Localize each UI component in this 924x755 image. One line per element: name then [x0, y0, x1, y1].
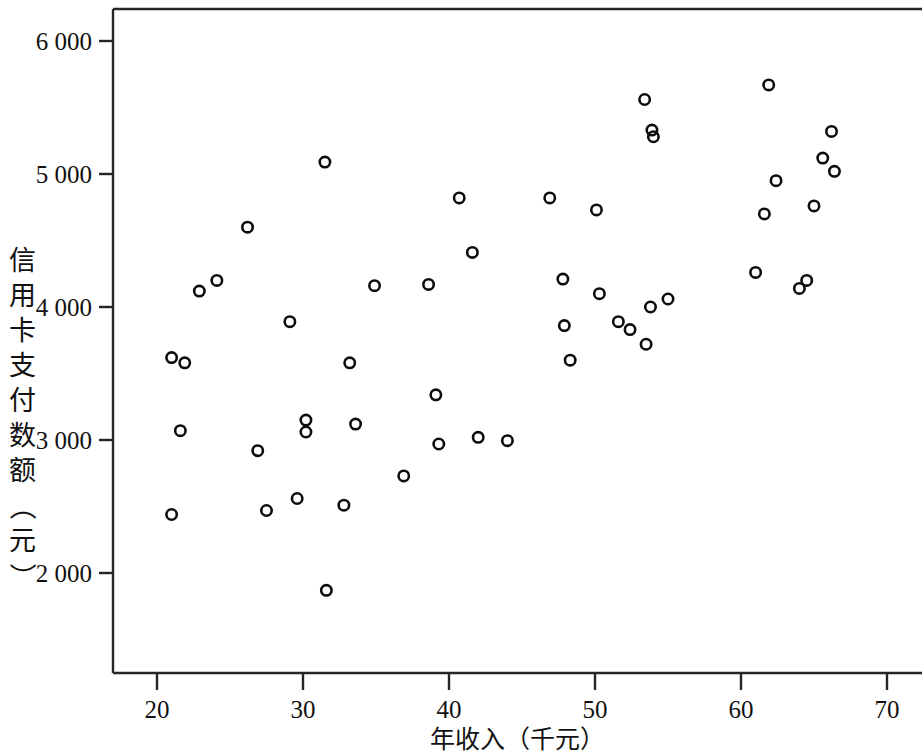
data-point [434, 439, 444, 449]
x-axis-title: 年收入（千元） [430, 726, 605, 753]
scatter-plot-figure: 2 0003 0004 0005 0006 000 203040506070 信… [0, 0, 924, 755]
data-point [771, 175, 781, 185]
data-point [764, 80, 774, 90]
x-tick-label: 20 [145, 696, 170, 723]
y-axis-title-char: 信 [9, 246, 36, 276]
data-point [802, 275, 812, 285]
x-tick-label: 70 [875, 696, 900, 723]
data-point [345, 358, 355, 368]
y-axis-title-char: 卡 [9, 316, 36, 346]
data-point [591, 205, 601, 215]
data-point [301, 415, 311, 425]
data-point [558, 274, 568, 284]
x-axis-ticks: 203040506070 [145, 673, 900, 723]
data-point [166, 509, 176, 519]
data-point [818, 153, 828, 163]
data-point [829, 166, 839, 176]
y-axis-title-char: 数 [9, 421, 36, 451]
y-tick-label: 4 000 [36, 294, 92, 321]
y-axis-title-char: 元 [9, 526, 36, 556]
data-point [809, 201, 819, 211]
data-point [545, 193, 555, 203]
data-point-layer [166, 80, 839, 596]
data-point [750, 267, 760, 277]
data-point [321, 585, 331, 595]
y-tick-label: 3 000 [36, 427, 92, 454]
data-point [565, 355, 575, 365]
data-point [180, 358, 190, 368]
data-point [212, 275, 222, 285]
x-tick-label: 50 [583, 696, 608, 723]
y-axis-title-char: 额 [9, 456, 36, 486]
y-tick-label: 6 000 [36, 28, 92, 55]
data-point [431, 390, 441, 400]
data-point [613, 316, 623, 326]
data-point [454, 193, 464, 203]
data-point [369, 281, 379, 291]
chart-canvas: 2 0003 0004 0005 0006 000 203040506070 信… [0, 0, 924, 755]
data-point [320, 157, 330, 167]
data-point [350, 419, 360, 429]
data-point [639, 94, 649, 104]
y-axis-title-char: 付 [9, 386, 36, 416]
data-point [242, 222, 252, 232]
data-point [467, 247, 477, 257]
data-point [166, 352, 176, 362]
data-point [301, 427, 311, 437]
data-point [645, 302, 655, 312]
data-point [759, 209, 769, 219]
data-point [663, 294, 673, 304]
y-tick-label: 2 000 [36, 560, 92, 587]
data-point [473, 432, 483, 442]
y-axis-title-char: ） [7, 563, 37, 590]
data-point [559, 320, 569, 330]
y-axis-ticks: 2 0003 0004 0005 0006 000 [36, 28, 113, 587]
data-point [648, 132, 658, 142]
x-tick-label: 30 [291, 696, 316, 723]
y-axis-title: 信用卡支付数额（元） [7, 246, 37, 590]
plot-frame [113, 9, 922, 673]
data-point [285, 316, 295, 326]
x-tick-label: 60 [729, 696, 754, 723]
data-point [502, 435, 512, 445]
data-point [175, 425, 185, 435]
y-axis-title-char: 支 [9, 351, 36, 381]
y-tick-label: 5 000 [36, 161, 92, 188]
data-point [625, 324, 635, 334]
data-point [339, 500, 349, 510]
data-point [826, 126, 836, 136]
data-point [261, 505, 271, 515]
data-point [399, 471, 409, 481]
data-point [594, 289, 604, 299]
data-point [641, 339, 651, 349]
data-point [194, 286, 204, 296]
data-point [253, 445, 263, 455]
data-point [423, 279, 433, 289]
y-axis-title-char: 用 [9, 281, 36, 311]
y-axis-title-char: （ [7, 493, 37, 520]
data-point [292, 493, 302, 503]
x-tick-label: 40 [437, 696, 462, 723]
